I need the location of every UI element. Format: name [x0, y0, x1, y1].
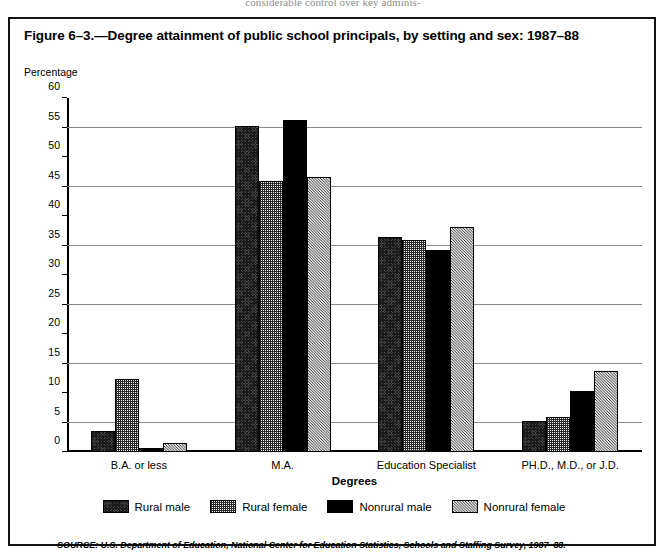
bar: [163, 443, 187, 452]
bar: [378, 237, 402, 452]
bar: [115, 379, 139, 452]
bar: [91, 431, 115, 452]
y-tick-label: 25: [30, 287, 60, 299]
bar-group: PH.D., M.D., or J.D.: [498, 98, 642, 452]
x-axis-title: Degrees: [67, 475, 642, 487]
bar: [570, 391, 594, 452]
legend-swatch-icon: [452, 500, 478, 513]
y-tick-label: 35: [30, 228, 60, 240]
bar: [546, 417, 570, 452]
legend-item[interactable]: Nonrural female: [452, 500, 566, 513]
y-axis-title: Percentage: [24, 66, 78, 78]
y-tick-label: 0: [30, 434, 60, 446]
bar: [139, 448, 163, 452]
y-tick-label: 20: [30, 316, 60, 328]
y-tick-label: 5: [30, 405, 60, 417]
figure-frame: Figure 6–3.—Degree attainment of public …: [8, 17, 656, 546]
bar: [522, 421, 546, 452]
legend-item[interactable]: Nonrural male: [327, 500, 431, 513]
x-tick-label: PH.D., M.D., or J.D.: [498, 459, 642, 471]
page-bleed-text: considerable control over key adminis-: [0, 0, 666, 8]
y-tick-label: 45: [30, 169, 60, 181]
legend-swatch-icon: [210, 500, 236, 513]
legend-item[interactable]: Rural male: [103, 500, 191, 513]
chart-legend: Rural maleRural femaleNonrural maleNonru…: [10, 500, 658, 513]
y-tick-label: 50: [30, 139, 60, 151]
legend-label: Nonrural female: [484, 501, 566, 513]
y-tick-label: 10: [30, 375, 60, 387]
bar-group: Education Specialist: [355, 98, 499, 452]
bar: [307, 177, 331, 452]
y-tick-label: 40: [30, 198, 60, 210]
x-tick-label: Education Specialist: [355, 459, 499, 471]
bar: [450, 227, 474, 452]
y-tick-label: 30: [30, 257, 60, 269]
legend-label: Nonrural male: [359, 501, 431, 513]
legend-item[interactable]: Rural female: [210, 500, 307, 513]
bar: [594, 371, 618, 452]
y-tick-label: 15: [30, 346, 60, 358]
legend-label: Rural female: [242, 501, 307, 513]
bar: [426, 250, 450, 452]
legend-swatch-icon: [327, 500, 353, 513]
x-tick-label: M.A.: [211, 459, 355, 471]
figure-title: Figure 6–3.—Degree attainment of public …: [24, 28, 579, 43]
legend-label: Rural male: [135, 501, 191, 513]
legend-swatch-icon: [103, 500, 129, 513]
bar: [283, 120, 307, 452]
y-tick-label: 55: [30, 110, 60, 122]
bar-group: M.A.: [211, 98, 355, 452]
x-tick-label: B.A. or less: [67, 459, 211, 471]
bar-group: B.A. or less: [67, 98, 211, 452]
bar: [235, 126, 259, 452]
bar: [402, 240, 426, 452]
y-tick-label: 60: [30, 80, 60, 92]
source-note: SOURCE: U.S. Department of Education, Na…: [57, 540, 566, 550]
plot-area: 051015202530354045505560 B.A. or lessM.A…: [67, 98, 642, 452]
bar: [259, 181, 283, 452]
